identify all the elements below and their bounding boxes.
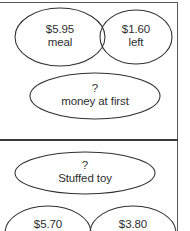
label-whole-money-text: money at first	[35, 95, 155, 108]
label-part-left-text: left	[104, 36, 168, 49]
label-whole-money: ? money at first	[35, 82, 155, 108]
label-part-meal-text: meal	[20, 36, 100, 49]
worksheet-page: $5.95 meal $1.60 left ? money at first ?…	[0, 0, 190, 231]
label-part-meal-value: $5.95	[20, 23, 100, 36]
label-whole-money-value: ?	[35, 82, 155, 95]
label-whole-stuffed-toy: ? Stuffed toy	[25, 159, 145, 185]
label-part-380-value: $3.80	[103, 218, 163, 231]
label-whole-stuffed-toy-text: Stuffed toy	[25, 172, 145, 185]
label-part-570-value: $5.70	[18, 218, 78, 231]
label-whole-stuffed-toy-value: ?	[25, 159, 145, 172]
label-part-left-value: $1.60	[104, 23, 168, 36]
label-part-left: $1.60 left	[104, 23, 168, 49]
label-part-570: $5.70	[18, 218, 78, 231]
label-part-380: $3.80	[103, 218, 163, 231]
label-part-meal: $5.95 meal	[20, 23, 100, 49]
